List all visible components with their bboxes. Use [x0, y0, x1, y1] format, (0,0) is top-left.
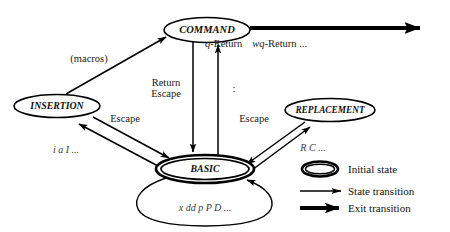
edge-label-insert-keys: i a I ... [53, 144, 79, 155]
replacement-to-basic-arrow [247, 122, 305, 164]
legend-label-exit-transition: Exit transition [348, 202, 411, 214]
legend-label-state-transition: State transition [348, 185, 415, 197]
edge-label-escape-replacement: Escape [239, 113, 269, 124]
legend-item-initial-state: Initial state [302, 162, 397, 177]
basic-label: BASIC [190, 163, 220, 174]
legend-initial-state-inner-ellipse [306, 164, 335, 174]
exit-key-q-rest: -Return [210, 38, 243, 49]
node-insertion[interactable]: INSERTION [14, 95, 100, 118]
legend-item-exit-transition: Exit transition [300, 202, 411, 214]
state-diagram: COMMAND INSERTION REPLACEMENT BASIC (mac… [0, 0, 450, 232]
legend: Initial state State transition Exit tran… [300, 162, 415, 215]
edge-label-macros: (macros) [70, 53, 108, 65]
node-replacement[interactable]: REPLACEMENT [285, 99, 375, 122]
insertion-label: INSERTION [29, 100, 84, 111]
exit-key-wq-rest: -Return ... [265, 38, 308, 49]
edge-label-basic-keys: x dd p P D ... [178, 202, 232, 213]
edge-label-return: Return [152, 77, 181, 88]
command-label: COMMAND [179, 24, 235, 35]
edge-label-colon: : [232, 82, 235, 94]
edge-label-escape-command: Escape [151, 88, 181, 99]
diagram-canvas: COMMAND INSERTION REPLACEMENT BASIC (mac… [0, 0, 450, 232]
replacement-label: REPLACEMENT [294, 105, 365, 115]
edge-label-escape-insertion: Escape [110, 113, 140, 124]
legend-label-initial-state: Initial state [348, 163, 397, 175]
edge-label-exit: q-Returnwq-Return ... [205, 38, 307, 49]
edge-replacement-to-basic [247, 122, 305, 164]
legend-item-state-transition: State transition [300, 185, 415, 197]
node-basic[interactable]: BASIC [156, 155, 254, 183]
edge-label-replace-keys: R C ... [299, 142, 325, 153]
exit-key-wq: wq [252, 38, 264, 49]
